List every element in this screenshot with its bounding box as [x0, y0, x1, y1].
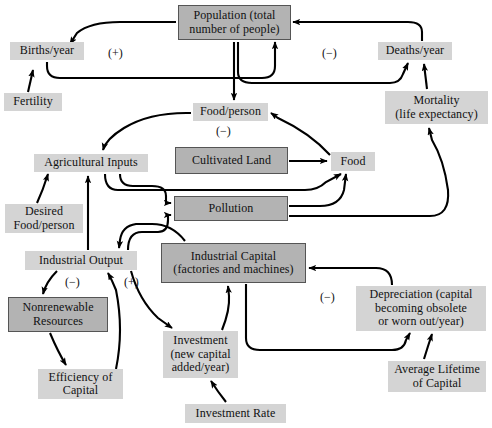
- polarity-label-neg-foodperson: (−): [216, 124, 231, 139]
- node-ind_capital[interactable]: Industrial Capital (factories and machin…: [161, 243, 306, 283]
- arrow-investrate-to-investment: [211, 381, 226, 402]
- arrow-nonrenewable-to-efficiency: [50, 333, 66, 365]
- node-depreciation[interactable]: Depreciation (capital becoming obsolete …: [356, 286, 486, 331]
- arrow-deaths-to-population: [293, 22, 422, 41]
- polarity-label-pos-industrial-investment: (+): [124, 275, 139, 290]
- polarity-label-pos-population-births: (+): [108, 46, 123, 61]
- node-investment[interactable]: Investment (new capital added/year): [163, 331, 238, 378]
- node-food_person[interactable]: Food/person: [193, 103, 268, 121]
- arrow-efficiency-to-indoutput: [108, 273, 120, 369]
- node-avg_lifetime[interactable]: Average Lifetime of Capital: [388, 361, 486, 392]
- node-ag_inputs[interactable]: Agricultural Inputs: [34, 154, 148, 172]
- node-efficiency[interactable]: Efficiency of Capital: [38, 369, 123, 399]
- arrow-indoutput-to-nonrenewable: [43, 271, 57, 294]
- arrow-pollution-to-mortality: [289, 128, 448, 216]
- node-nonrenew[interactable]: Nonrenewable Resources: [8, 297, 108, 332]
- node-population[interactable]: Population (total number of people): [178, 5, 291, 40]
- arrow-population-to-births: [70, 22, 176, 44]
- arrow-avglifetime-to-depreciation: [424, 334, 432, 359]
- arrow-depreciation-to-indcapital: [309, 268, 392, 285]
- polarity-label-neg-population-deaths: (−): [322, 46, 337, 61]
- arrow-aginputs-to-food: [105, 174, 341, 190]
- node-ind_output[interactable]: Industrial Output: [25, 251, 137, 270]
- node-pollution[interactable]: Pollution: [174, 196, 288, 221]
- node-deaths[interactable]: Deaths/year: [378, 42, 452, 60]
- arrow-foodperson-to-aginputs: [103, 113, 191, 150]
- node-invest_rate[interactable]: Investment Rate: [185, 404, 286, 423]
- node-cultivated[interactable]: Cultivated Land: [175, 147, 288, 174]
- arrow-desiredfood-to-aginputs: [37, 174, 48, 203]
- node-mortality[interactable]: Mortality (life expectancy): [385, 91, 488, 124]
- arrow-fertility-to-births: [28, 70, 33, 92]
- arrow-mortality-to-deaths: [424, 64, 427, 89]
- node-births[interactable]: Births/year: [10, 42, 84, 60]
- node-desired_food[interactable]: Desired Food/person: [5, 204, 83, 233]
- arrow-investment-to-indcapital: [222, 286, 229, 330]
- node-fertility[interactable]: Fertility: [4, 93, 62, 111]
- arrow-aginputs-to-pollution: [120, 174, 171, 203]
- node-food[interactable]: Food: [331, 152, 375, 171]
- polarity-label-neg-depreciation: (−): [320, 290, 335, 305]
- polarity-label-neg-industrial-output: (−): [65, 275, 80, 290]
